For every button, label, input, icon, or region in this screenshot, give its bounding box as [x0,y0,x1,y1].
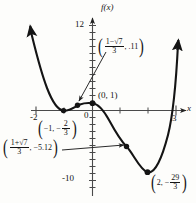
function-graph-figure: f(x) x 12 0 -10 -2 3 (0, 1) ( 1−√7 3 , .… [0,0,196,203]
annotation-value: , −5.12 [30,144,53,152]
x-axis [31,106,186,116]
annotation-value: , .11 [125,43,139,51]
point-inflection-right [124,144,129,149]
annotation-local-min-right: ( 2, − 29 3 ) [150,174,188,191]
curve-left-arrow [30,26,31,34]
point-local-min-left [61,108,66,113]
fraction-29-over-3: 29 3 [170,174,180,191]
paren-close: ) [182,174,187,191]
annotation-inflection-left: ( 1−√7 3 , .11 ) [97,38,145,55]
x-axis-label: x [187,104,191,113]
annotation-x-part: −1, − [44,125,61,133]
curve-right-arrow [177,40,178,50]
y-tick-label-12: 12 [75,20,84,29]
y-axis-label: f(x) [101,3,114,12]
x-tick-label-3: 3 [172,114,177,123]
annotation-inflection-right: ( 1+√7 3 , −5.12 ) [2,139,59,156]
point-inflection-left [75,103,80,108]
fraction-1-minus-sqrt7-over-3: 1−√7 3 [105,38,124,55]
paren-open: ( [3,139,8,156]
paren-close: ) [53,139,58,156]
y-tick-label--10: -10 [62,174,74,183]
y-tick-label-0: 0 [84,111,89,120]
fraction-2-over-3: 2 3 [62,120,70,137]
y-axis [89,18,96,196]
point-y-intercept [90,100,96,106]
paren-open: ( [98,38,103,55]
paren-close: ) [139,38,144,55]
annotation-local-min-left: ( −1, − 2 3 ) [37,120,77,137]
fraction-1-plus-sqrt7-over-3: 1+√7 3 [10,139,29,156]
paren-open: ( [38,120,43,137]
graph-canvas [0,0,196,203]
paren-open: ( [151,174,156,191]
annotation-x-part: 2, − [157,179,170,187]
paren-close: ) [72,120,77,137]
annotation-y-intercept: (0, 1) [98,91,118,100]
